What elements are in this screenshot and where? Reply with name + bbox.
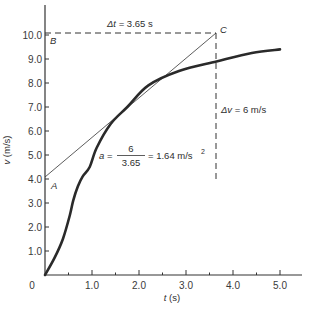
accel-superscript: 2	[201, 148, 205, 155]
x-tick-label: 2.0	[132, 280, 146, 291]
y-tick-label: 2.0	[28, 222, 42, 233]
y-tick-label: 1.0	[28, 246, 42, 257]
x-tick-label: 1.0	[85, 280, 99, 291]
delta-t-value: = 3.65 s	[116, 18, 153, 29]
y-tick-label: 4.0	[28, 174, 42, 185]
y-tick-label: 8.0	[28, 78, 42, 89]
accel-denominator: 3.65	[122, 157, 141, 168]
point-c-label: C	[220, 24, 227, 35]
accel-rhs: = 1.64 m/s	[148, 150, 193, 161]
point-a-label: A	[50, 180, 57, 191]
accel-lhs: a	[99, 150, 104, 161]
delta-t-symbol: Δt	[106, 18, 116, 29]
y-tick-label: 10.0	[23, 30, 43, 41]
y-tick-label: 5.0	[28, 150, 42, 161]
velocity-time-chart: 1.02.03.04.05.06.07.08.09.010.0 1.02.03.…	[0, 0, 317, 316]
y-tick-label: 7.0	[28, 102, 42, 113]
y-axis-label: v (m/s)	[1, 135, 12, 164]
x-tick-label: 4.0	[226, 280, 240, 291]
delta-t-annotation: Δt = 3.65 s	[106, 18, 153, 29]
axes	[45, 5, 302, 275]
x-origin-label: 0	[29, 280, 35, 291]
x-tick-label: 5.0	[273, 280, 287, 291]
point-b-label: B	[50, 35, 57, 46]
x-axis-label-unit: (s)	[166, 292, 180, 303]
acceleration-formula: a = 6 3.65 = 1.64 m/s 2	[99, 143, 205, 168]
delta-v-value: = 6 m/s	[232, 104, 266, 115]
y-tick-label: 3.0	[28, 198, 42, 209]
y-tick-label: 9.0	[28, 54, 42, 65]
accel-numerator: 6	[128, 143, 133, 154]
y-axis-label-unit: (m/s)	[1, 135, 12, 159]
x-ticks: 1.02.03.04.05.0	[69, 270, 288, 291]
x-tick-label: 3.0	[179, 280, 193, 291]
accel-equals: =	[107, 150, 113, 161]
y-tick-label: 6.0	[28, 126, 42, 137]
velocity-curve	[45, 49, 280, 275]
x-axis-label: t (s)	[164, 292, 180, 303]
delta-v-annotation: Δv = 6 m/s	[220, 104, 266, 115]
